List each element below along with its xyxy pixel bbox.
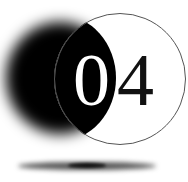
digit-four: 4 (117, 43, 154, 117)
digit-zero: 0 (73, 43, 110, 117)
number-badge-graphic: 0 4 (0, 0, 188, 182)
drop-shadow-core (68, 163, 106, 168)
